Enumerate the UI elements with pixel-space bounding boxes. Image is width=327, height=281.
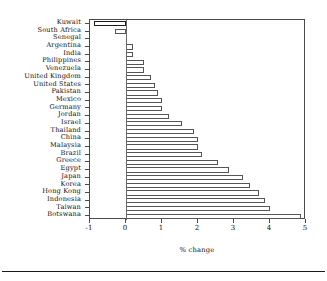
- plot-area: [89, 19, 305, 219]
- bar-egypt: [126, 167, 229, 172]
- y-axis-category-labels: KuwaitSouth AfricaSenegalArgentinaIndiaP…: [0, 19, 85, 219]
- x-tick-mark: [125, 219, 126, 223]
- bar-thailand: [126, 129, 194, 134]
- x-axis-title: % change: [89, 246, 305, 254]
- zero-baseline: [126, 20, 127, 220]
- x-tick-label-5: 5: [303, 224, 307, 232]
- bar-japan: [126, 175, 243, 180]
- x-tick-mark: [269, 219, 270, 223]
- x-axis: -1012345: [89, 219, 305, 249]
- bars-container: [90, 20, 306, 220]
- page-divider-rule: [2, 271, 325, 272]
- x-tick-mark: [161, 219, 162, 223]
- bar-jordan: [126, 114, 169, 119]
- bar-united-kingdom: [126, 75, 151, 80]
- x-tick-label-3: 3: [231, 224, 235, 232]
- bar-united-states: [126, 83, 155, 88]
- bar-india: [126, 52, 133, 57]
- bar-botswana: [126, 214, 301, 219]
- bar-hong-kong: [126, 190, 259, 195]
- bar-israel: [126, 121, 182, 126]
- bar-venezuela: [126, 67, 144, 72]
- bar-germany: [126, 106, 162, 111]
- y-axis-label-botswana: Botswana: [47, 211, 81, 219]
- bar-korea: [126, 183, 250, 188]
- bar-argentina: [126, 44, 133, 49]
- bar-brazil: [126, 152, 202, 157]
- bar-philippines: [126, 60, 144, 65]
- x-tick-mark: [233, 219, 234, 223]
- x-tick-label-1: 1: [159, 224, 163, 232]
- x-tick-mark: [305, 219, 306, 223]
- bar-mexico: [126, 98, 162, 103]
- x-tick-label--1: -1: [86, 224, 93, 232]
- x-tick-label-2: 2: [195, 224, 199, 232]
- bar-pakistan: [126, 90, 158, 95]
- bar-malaysia: [126, 144, 198, 149]
- bar-china: [126, 137, 198, 142]
- bar-chart-figure: KuwaitSouth AfricaSenegalArgentinaIndiaP…: [0, 0, 327, 281]
- bar-kuwait: [94, 21, 126, 26]
- bar-south-africa: [115, 29, 126, 34]
- x-tick-mark: [197, 219, 198, 223]
- bar-indonesia: [126, 198, 265, 203]
- x-tick-label-4: 4: [267, 224, 271, 232]
- x-tick-label-0: 0: [123, 224, 127, 232]
- x-tick-mark: [89, 219, 90, 223]
- bar-greece: [126, 160, 218, 165]
- bar-taiwan: [126, 206, 270, 211]
